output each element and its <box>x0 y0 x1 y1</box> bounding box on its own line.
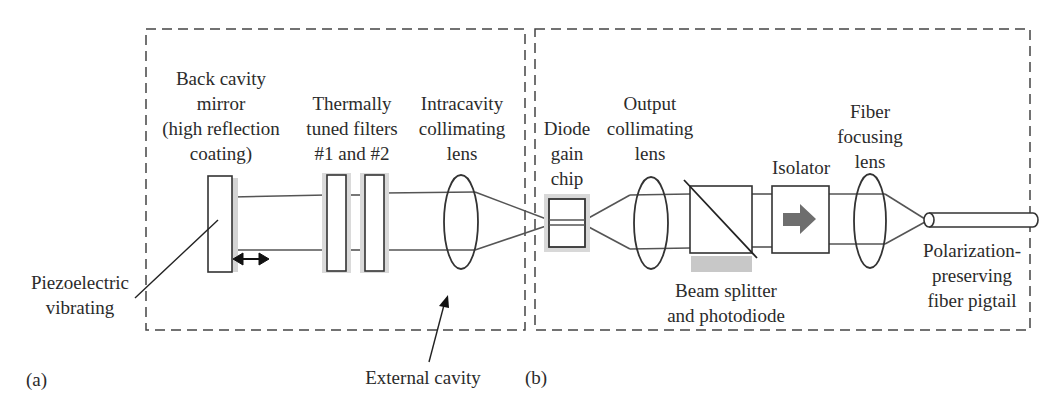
fiber-pigtail <box>924 213 1038 227</box>
laser-diagram <box>0 0 1060 416</box>
back-cavity-mirror <box>208 176 232 272</box>
back-cavity-mirror-label: Back cavity mirror (high reflection coat… <box>155 66 287 166</box>
panel-a-label: (a) <box>26 367 47 392</box>
thermal-filters-label: Thermally tuned filters #1 and #2 <box>296 91 408 166</box>
fiber-focusing-lens <box>854 174 886 268</box>
thermal-filter-1 <box>327 175 346 271</box>
output-collimating-lens <box>634 177 668 269</box>
gain-chip-label: Diode gain chip <box>540 116 594 191</box>
thermal-filter-2 <box>365 175 384 271</box>
fiber-lens-label: Fiber focusing lens <box>828 99 912 174</box>
external-cavity-arrow-icon <box>429 295 449 362</box>
piezo-double-arrow-icon <box>233 253 269 265</box>
output-lens-label: Output collimating lens <box>600 91 700 166</box>
piezo-label: Piezoelectric vibrating <box>24 270 136 320</box>
fiber-pigtail-label: Polarization- preserving fiber pigtail <box>912 238 1032 313</box>
intracavity-lens-label: Intracavity collimating lens <box>410 91 514 166</box>
panel-b-label: (b) <box>525 365 547 390</box>
beam-splitter-label: Beam splitter and photodiode <box>656 278 796 328</box>
piezo-leader-line <box>135 220 218 298</box>
intracavity-lens <box>444 175 478 269</box>
photodiode-strip <box>691 256 752 272</box>
external-cavity-label: External cavity <box>358 365 488 390</box>
diode-gain-chip <box>549 199 585 247</box>
